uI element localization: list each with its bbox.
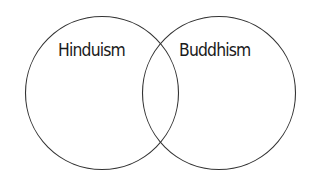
venn-diagram: Hinduism Buddhism — [0, 0, 315, 171]
set-label-hinduism: Hinduism — [58, 42, 125, 59]
set-label-buddhism: Buddhism — [179, 42, 251, 59]
venn-circles — [0, 0, 315, 171]
